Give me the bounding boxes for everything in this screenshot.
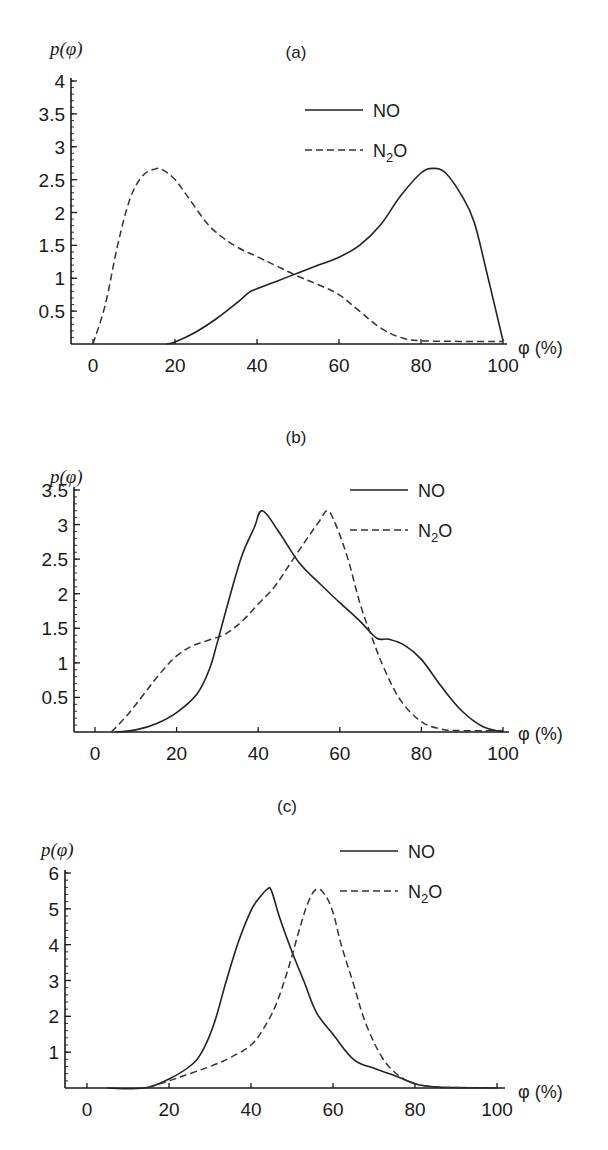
y-tick-label: 1.5 <box>42 618 68 639</box>
x-axis-unit: φ (%) <box>518 724 563 744</box>
x-tick-label: 60 <box>328 355 349 376</box>
panel-label: (c) <box>277 797 297 816</box>
curve-n2o <box>149 889 498 1088</box>
x-tick-label: 0 <box>90 743 101 764</box>
y-tick-label: 1.5 <box>39 235 65 256</box>
chart-panel-c: (c) p(φ) 123456020406080100 NON2O φ (%) <box>39 797 563 1120</box>
y-tick-label: 5 <box>48 899 59 920</box>
y-tick-label: 3 <box>57 515 68 536</box>
x-tick-label: 100 <box>487 743 519 764</box>
x-axis-unit: φ (%) <box>518 1082 563 1102</box>
curve-no <box>108 888 498 1089</box>
y-tick-label: 0.5 <box>42 687 68 708</box>
legend: NON2O <box>305 101 407 165</box>
y-tick-label: 2.5 <box>39 170 65 191</box>
chart-panel-a: (a) p(φ) 0.511.522.533.54020406080100 NO… <box>39 38 563 376</box>
x-tick-label: 20 <box>166 743 187 764</box>
x-tick-label: 40 <box>246 355 267 376</box>
curve-n2o <box>111 511 503 732</box>
legend-label-n2o: N2O <box>418 521 452 545</box>
x-tick-label: 60 <box>329 743 350 764</box>
curves <box>111 511 503 732</box>
x-tick-label: 0 <box>88 355 99 376</box>
y-axis-title: p(φ) <box>39 839 74 861</box>
curves <box>93 168 503 344</box>
y-tick-label: 4 <box>48 935 59 956</box>
y-tick-label: 0.5 <box>39 301 65 322</box>
axes: 0.511.522.533.54020406080100 <box>39 71 519 376</box>
curve-no <box>115 511 503 732</box>
y-tick-label: 2 <box>48 1006 59 1027</box>
legend: NON2O <box>340 842 442 906</box>
panel-label: (a) <box>286 43 307 62</box>
y-tick-label: 3.5 <box>42 480 68 501</box>
x-tick-label: 40 <box>248 743 269 764</box>
x-tick-label: 40 <box>240 1099 261 1120</box>
legend-label-n2o: N2O <box>408 882 442 906</box>
axes: 123456020406080100 <box>48 863 512 1120</box>
legend-label-no: NO <box>418 481 445 501</box>
legend-label-n2o: N2O <box>373 141 407 165</box>
y-tick-label: 4 <box>54 71 65 92</box>
x-axis-unit: φ (%) <box>518 338 563 358</box>
y-tick-label: 3 <box>54 137 65 158</box>
y-tick-label: 2.5 <box>42 549 68 570</box>
x-tick-label: 20 <box>164 355 185 376</box>
legend-label-no: NO <box>408 842 435 862</box>
y-tick-label: 2 <box>54 203 65 224</box>
x-tick-label: 60 <box>322 1099 343 1120</box>
chart-panel-b: (b) p(φ) 0.511.522.533.5020406080100 NON… <box>42 428 563 764</box>
x-tick-label: 100 <box>481 1099 513 1120</box>
figure: (a) p(φ) 0.511.522.533.54020406080100 NO… <box>0 0 608 1150</box>
y-tick-label: 1 <box>48 1042 59 1063</box>
x-tick-label: 80 <box>410 355 431 376</box>
y-tick-label: 6 <box>48 863 59 884</box>
curves <box>108 888 498 1089</box>
x-tick-label: 0 <box>82 1099 93 1120</box>
curve-n2o <box>93 168 503 344</box>
legend: NON2O <box>350 481 452 545</box>
y-tick-label: 3 <box>48 971 59 992</box>
y-axis-title: p(φ) <box>48 38 83 60</box>
x-tick-label: 100 <box>487 355 519 376</box>
x-tick-label: 20 <box>158 1099 179 1120</box>
x-tick-label: 80 <box>404 1099 425 1120</box>
y-tick-label: 1 <box>57 653 68 674</box>
y-tick-label: 2 <box>57 584 68 605</box>
y-tick-label: 3.5 <box>39 104 65 125</box>
panel-label: (b) <box>286 428 307 447</box>
x-tick-label: 80 <box>411 743 432 764</box>
legend-label-no: NO <box>373 101 400 121</box>
y-tick-label: 1 <box>54 268 65 289</box>
curve-no <box>167 168 503 344</box>
